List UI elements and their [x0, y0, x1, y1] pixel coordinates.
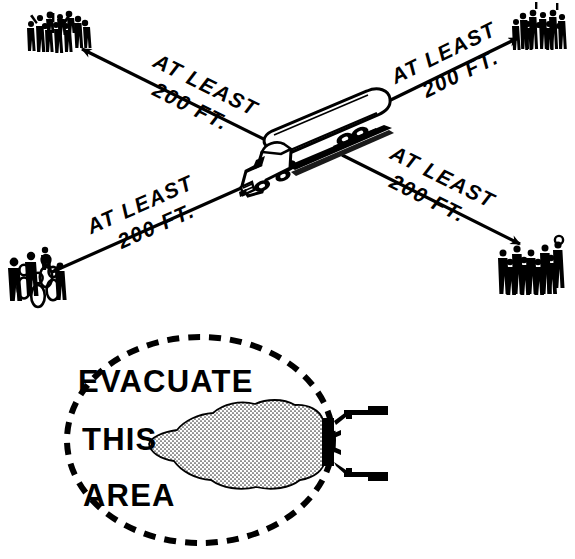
evacuate-line-1: EVACUATE — [78, 364, 254, 399]
evacuate-line-3: AREA — [83, 478, 176, 513]
evacuate-line-2: THIS — [82, 422, 157, 457]
hazmat-evacuation-figure: AT LEAST 200 FT. AT LEAST 200 FT. AT LEA… — [0, 0, 575, 559]
figure-canvas: AT LEAST 200 FT. AT LEAST 200 FT. AT LEA… — [0, 0, 575, 559]
